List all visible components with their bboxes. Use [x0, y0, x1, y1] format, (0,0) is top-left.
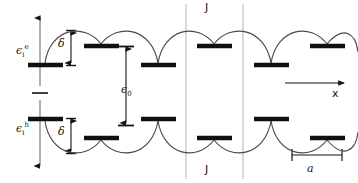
label-epsilon-electron-sup: e	[24, 43, 28, 51]
lattice-constant-measure	[292, 149, 342, 161]
figure-canvas: ϵie ϵih δ δ ϵ0 J J x a	[0, 0, 358, 183]
label-epsilon-hole-sup: h	[24, 121, 29, 129]
label-epsilon-electron-sub: i	[22, 51, 24, 59]
electron-level-bars	[28, 46, 345, 65]
label-coupling-bottom: J	[205, 164, 208, 175]
label-delta-top: δ	[58, 38, 65, 49]
hole-level-bars	[28, 119, 345, 138]
label-epsilon-zero-sub: 0	[127, 90, 131, 98]
label-axis-x: x	[332, 88, 339, 99]
delta-bottom-measure	[66, 119, 76, 154]
label-epsilon-electron: ϵie	[16, 44, 29, 59]
label-coupling-top: J	[205, 2, 208, 13]
diagram-svg	[0, 0, 358, 183]
label-delta-bottom: δ	[58, 126, 65, 137]
label-lattice-constant: a	[307, 163, 314, 174]
label-epsilon-hole-sub: i	[22, 129, 24, 137]
label-epsilon-zero: ϵ0	[121, 84, 132, 98]
delta-top-measure	[66, 31, 76, 66]
label-epsilon-hole: ϵih	[16, 122, 29, 137]
